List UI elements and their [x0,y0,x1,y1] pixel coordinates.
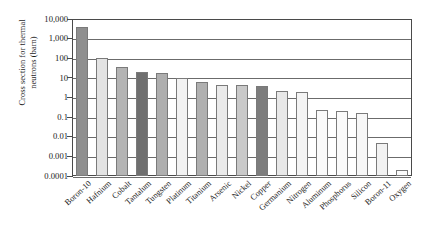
bar [376,143,388,176]
bar [276,91,288,176]
x-axis-labels: Boron-10HafniumCobaltTantalumTungstenPla… [72,176,412,238]
bar [236,85,248,176]
y-tick-label: 0.01 [8,132,68,141]
bar [116,67,128,176]
bar [156,73,168,176]
y-tick-label: 10,000 [8,15,68,24]
bar [356,113,368,176]
bar [176,78,188,176]
bar-series [72,19,412,176]
bar [76,27,88,176]
y-tick-label: 100 [8,54,68,63]
chart-figure: Cross section for thermal neutrons (barn… [0,0,424,238]
y-tick-label: 0.001 [8,152,68,161]
bar [336,111,348,176]
bar [136,72,148,176]
bar [96,58,108,176]
bar [316,110,328,176]
x-tick-label: Oxygen [388,179,414,203]
bar [296,92,308,176]
y-tick-label: 0.0001 [8,172,68,181]
y-tick-label: 1 [8,93,68,102]
y-tick-label: 1,000 [8,34,68,43]
bar [216,85,228,176]
x-tick-label: Arsenic [208,179,233,203]
y-tick-label: 10 [8,74,68,83]
bar [256,86,268,176]
bar [196,82,208,176]
y-tick-label: 0.1 [8,113,68,122]
